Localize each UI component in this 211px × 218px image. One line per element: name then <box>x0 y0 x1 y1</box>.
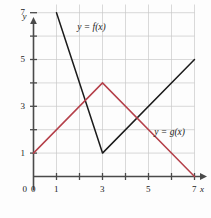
x-tick-label-1: 1 <box>54 185 59 194</box>
curve-label-g: y = g(x) <box>154 128 185 138</box>
y-tick-label-3: 3 <box>21 102 26 111</box>
y-tick-label-1: 1 <box>21 149 26 158</box>
gridlines <box>34 5 195 177</box>
graph-figure: y x 013570 1357 y = f(x)y = g(x) <box>0 0 211 218</box>
origin-label: 0 <box>23 185 28 194</box>
axis-ticks <box>30 13 195 180</box>
curve-label-f: y = f(x) <box>77 23 106 33</box>
x-axis-label: x <box>200 185 204 194</box>
y-tick-label-7: 7 <box>21 8 26 17</box>
data-series <box>34 13 195 177</box>
x-tick-label-7: 7 <box>192 185 197 194</box>
y-tick-label-5: 5 <box>21 55 26 64</box>
x-tick-label-0: 0 <box>31 185 36 194</box>
x-tick-label-5: 5 <box>146 185 151 194</box>
x-tick-label-3: 3 <box>100 185 105 194</box>
